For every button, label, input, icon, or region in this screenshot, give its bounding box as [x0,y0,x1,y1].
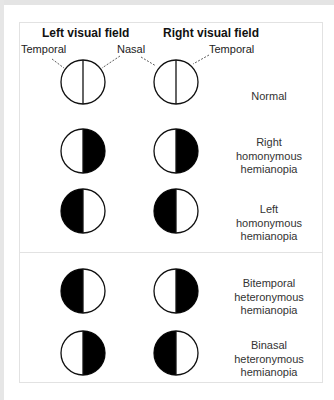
row-label-bitemporal: Bitemporalheteronymoushemianopia [219,277,319,318]
row-label-normal: Normal [219,90,319,104]
row-label-right-homonymous: Righthomonymoushemianopia [219,136,319,177]
right-visual-field-circle [154,189,198,233]
left-visual-field-circle [61,331,105,375]
left-visual-field-circle [61,269,105,313]
left-visual-field-circle [61,189,105,233]
right-visual-field-circle [154,269,198,313]
right-visual-field-circle [154,129,198,173]
left-visual-field-circle [61,129,105,173]
row-label-binasal: Binasalheteronymoushemianopia [219,339,319,380]
left-visual-field-circle [61,60,105,104]
row-label-left-homonymous: Lefthomonymoushemianopia [219,203,319,244]
right-visual-field-circle [154,331,198,375]
right-visual-field-circle [154,60,198,104]
